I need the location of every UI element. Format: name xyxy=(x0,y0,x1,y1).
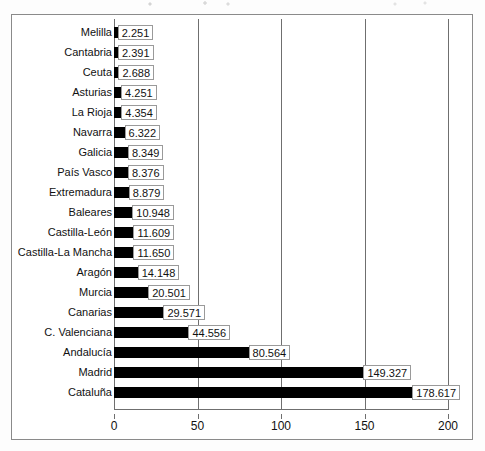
category-label-asturias: Asturias xyxy=(12,84,112,101)
bar-castilla-la-mancha xyxy=(114,247,133,258)
bar-value-label: 4.354 xyxy=(121,105,157,120)
bar-andaluc-a xyxy=(114,347,249,358)
bar-murcia xyxy=(114,287,148,298)
category-label-andaluc-a: Andalucía xyxy=(12,344,112,361)
bar-asturias xyxy=(114,87,121,98)
bar-value-label: 14.148 xyxy=(138,265,180,280)
bar-row: 29.571 xyxy=(114,303,448,323)
bar-value-label: 6.322 xyxy=(125,125,161,140)
category-label-canarias: Canarias xyxy=(12,304,112,321)
category-label-cantabria: Cantabria xyxy=(12,44,112,61)
tick-label-200: 200 xyxy=(438,419,458,433)
scan-artifact-speckles xyxy=(0,0,485,10)
bar-value-label: 8.376 xyxy=(128,165,164,180)
bar-row: 10.948 xyxy=(114,203,448,223)
category-label-catalu-a: Cataluña xyxy=(12,384,112,401)
category-label-arag-n: Aragón xyxy=(12,264,112,281)
bar-value-label: 11.609 xyxy=(133,225,174,240)
tick-label-100: 100 xyxy=(271,419,291,433)
bar-row: 14.148 xyxy=(114,263,448,283)
bar-arag-n xyxy=(114,267,138,278)
bar-value-label: 8.879 xyxy=(129,185,165,200)
bar-row: 44.556 xyxy=(114,323,448,343)
bar-row: 80.564 xyxy=(114,343,448,363)
bar-value-label: 4.251 xyxy=(121,85,157,100)
bar-pa-s-vasco xyxy=(114,167,128,178)
bar-value-label: 11.650 xyxy=(133,245,174,260)
bar-madrid xyxy=(114,367,363,378)
chart-figure-frame: MelillaCantabriaCeutaAsturiasLa RiojaNav… xyxy=(11,14,473,440)
bar-catalu-a xyxy=(114,387,412,398)
bar-value-label: 29.571 xyxy=(163,305,205,320)
category-label-castilla-le-n: Castilla-León xyxy=(12,224,112,241)
gridline-200 xyxy=(448,19,449,410)
bar-row: 8.376 xyxy=(114,163,448,183)
category-label-castilla-la-mancha: Castilla-La Mancha xyxy=(12,244,112,261)
bar-value-label: 2.391 xyxy=(118,45,154,60)
bar-row: 149.327 xyxy=(114,363,448,383)
tick-label-50: 50 xyxy=(191,419,204,433)
tick-label-150: 150 xyxy=(354,419,374,433)
bar-c-valenciana xyxy=(114,327,188,338)
bar-row: 8.879 xyxy=(114,183,448,203)
bar-row: 11.609 xyxy=(114,223,448,243)
bar-row: 4.251 xyxy=(114,83,448,103)
category-label-madrid: Madrid xyxy=(12,364,112,381)
bar-value-label: 44.556 xyxy=(188,325,230,340)
bar-value-label: 178.617 xyxy=(412,385,460,400)
category-label-galicia: Galicia xyxy=(12,144,112,161)
bar-navarra xyxy=(114,127,125,138)
bar-extremadura xyxy=(114,187,129,198)
bar-row: 2.688 xyxy=(114,63,448,83)
plot-area: 2.2512.3912.6884.2514.3546.3228.3498.376… xyxy=(114,19,448,410)
bar-row: 2.391 xyxy=(114,43,448,63)
bar-value-label: 2.688 xyxy=(118,65,154,80)
category-label-murcia: Murcia xyxy=(12,284,112,301)
bar-la-rioja xyxy=(114,107,121,118)
category-axis-baseline xyxy=(114,409,448,410)
category-label-pa-s-vasco: País Vasco xyxy=(12,164,112,181)
bar-value-label: 149.327 xyxy=(363,365,411,380)
bar-row: 178.617 xyxy=(114,383,448,403)
bar-value-label: 2.251 xyxy=(118,25,154,40)
bar-value-label: 80.564 xyxy=(249,345,291,360)
bar-row: 2.251 xyxy=(114,23,448,43)
bar-value-label: 10.948 xyxy=(132,205,174,220)
category-label-navarra: Navarra xyxy=(12,124,112,141)
bar-value-label: 8.349 xyxy=(128,145,164,160)
category-label-ceuta: Ceuta xyxy=(12,64,112,81)
bar-baleares xyxy=(114,207,132,218)
value-axis: 050100150200 xyxy=(114,414,448,434)
bar-row: 6.322 xyxy=(114,123,448,143)
category-axis-labels: MelillaCantabriaCeutaAsturiasLa RiojaNav… xyxy=(12,19,112,410)
bar-row: 11.650 xyxy=(114,243,448,263)
category-label-extremadura: Extremadura xyxy=(12,184,112,201)
bar-canarias xyxy=(114,307,163,318)
category-label-la-rioja: La Rioja xyxy=(12,104,112,121)
category-label-c-valenciana: C. Valenciana xyxy=(12,324,112,341)
bar-castilla-le-n xyxy=(114,227,133,238)
category-label-baleares: Baleares xyxy=(12,204,112,221)
bar-row: 4.354 xyxy=(114,103,448,123)
category-label-melilla: Melilla xyxy=(12,24,112,41)
bar-galicia xyxy=(114,147,128,158)
bar-value-label: 20.501 xyxy=(148,285,190,300)
bar-row: 20.501 xyxy=(114,283,448,303)
tick-label-0: 0 xyxy=(111,419,118,433)
bar-row: 8.349 xyxy=(114,143,448,163)
